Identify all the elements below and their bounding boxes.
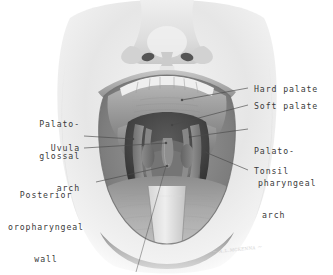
label-palatopharyngeal-arch-line2: pharyngeal xyxy=(254,178,316,189)
label-posterior-wall-line3: wall xyxy=(0,254,92,265)
label-palatopharyngeal-arch-line1: Palato- xyxy=(254,146,316,157)
label-hard-palate: Hard palate xyxy=(254,84,318,95)
tonsil-right xyxy=(181,144,194,168)
label-posterior-wall-line2: oropharyngeal xyxy=(0,222,92,233)
label-posterior-oropharyngeal-wall: Posterior oropharyngeal wall xyxy=(0,169,92,275)
label-palatopharyngeal-arch-line3: arch xyxy=(254,210,316,221)
label-soft-palate: Soft palate xyxy=(254,101,318,112)
tonsil-left xyxy=(142,144,155,168)
label-palatoglossal-arch-line1: Palato- xyxy=(0,119,80,130)
label-palatopharyngeal-arch: Palato- pharyngeal arch xyxy=(254,125,316,231)
label-tonsil: Tonsil xyxy=(254,166,289,177)
label-uvula: Uvula xyxy=(0,143,80,154)
label-posterior-wall-line1: Posterior xyxy=(0,190,92,201)
